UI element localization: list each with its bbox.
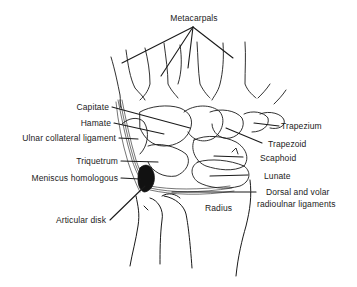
label-hamate: Hamate [81, 118, 111, 128]
ulna-bone [130, 196, 162, 266]
label-capitate: Capitate [77, 102, 109, 112]
label-dorsal-volar-radioulnar-ligaments-line1: Dorsal and volar [266, 187, 330, 197]
label-metacarpals: Metacarpals [170, 13, 218, 23]
label-radius: Radius [205, 203, 232, 213]
metacarpal-bones [111, 42, 286, 108]
wrist-anatomy-diagram: Metacarpals Capitate Hamate Ulnar collat… [0, 0, 357, 287]
label-ulnar-collateral-ligament: Ulnar collateral ligament [22, 133, 116, 143]
label-trapezoid: Trapezoid [268, 139, 306, 149]
radioulnar-ligament-fibers [150, 186, 234, 194]
label-dorsal-volar-radioulnar-ligaments-line2: radioulnar ligaments [257, 199, 336, 209]
label-scaphoid: Scaphoid [260, 153, 296, 163]
meniscus-homologous-mass [138, 165, 154, 192]
label-meniscus-homologous: Meniscus homologous [32, 173, 118, 183]
label-lunate: Lunate [264, 171, 291, 181]
label-triquetrum: Triquetrum [76, 156, 118, 166]
radius-bone [162, 180, 251, 276]
metacarpals-leader-lines [122, 27, 233, 76]
label-articular-disk: Articular disk [56, 215, 106, 225]
label-trapezium: Trapezium [281, 121, 322, 131]
